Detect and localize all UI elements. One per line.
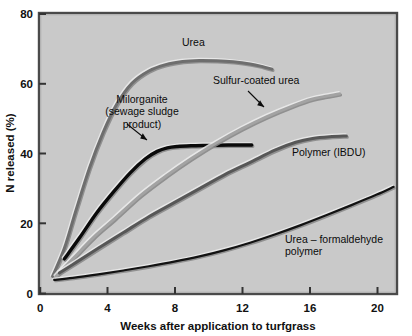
milorganite-label-line-1: (sewage sludge (105, 105, 179, 117)
x-tick-label-0: 0 (37, 302, 43, 314)
sulfur-coated-urea-label-line-0: Sulfur-coated urea (213, 74, 300, 86)
urea-label-line-0: Urea (182, 36, 205, 48)
x-tick-label-20: 20 (371, 302, 384, 314)
y-axis-title: N released (%) (4, 113, 16, 192)
chart-figure: 80 60 40 20 0 0 4 8 12 16 20 Weeks after… (0, 0, 412, 336)
y-tick-label-40: 40 (20, 148, 33, 160)
y-tick-label-80: 80 (20, 8, 33, 20)
milorganite-label-line-2: product) (123, 118, 162, 130)
x-axis-title: Weeks after application to turfgrass (120, 320, 315, 332)
x-tick-label-8: 8 (172, 302, 179, 314)
sulfur-coated-urea-label: Sulfur-coated urea (213, 74, 300, 86)
milorganite-label-line-0: Milorganite (116, 93, 168, 105)
y-tick-label-20: 20 (20, 218, 33, 230)
y-tick-label-0: 0 (27, 288, 33, 300)
urea-formaldehyde-label-line-0: Urea – formaldehyde (285, 233, 383, 245)
chart-canvas: 80 60 40 20 0 0 4 8 12 16 20 Weeks after… (0, 0, 412, 336)
urea-label: Urea (182, 36, 205, 48)
x-tick-label-16: 16 (304, 302, 317, 314)
urea-formaldehyde-label-line-1: polymer (285, 245, 323, 257)
x-tick-label-4: 4 (104, 302, 111, 314)
y-tick-label-60: 60 (20, 78, 33, 90)
x-tick-label-12: 12 (236, 302, 249, 314)
polymer-ibdu-label-line-0: Polymer (IBDU) (292, 146, 366, 158)
polymer-ibdu-label: Polymer (IBDU) (292, 146, 366, 158)
